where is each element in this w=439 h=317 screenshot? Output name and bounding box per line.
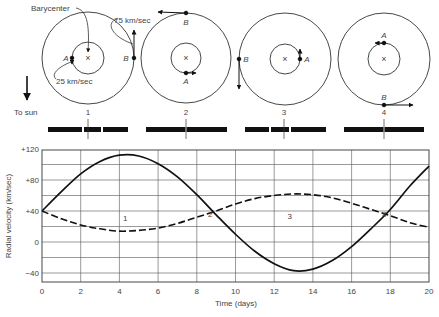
x-tick-label: 12 <box>270 287 279 296</box>
spectra <box>48 119 424 139</box>
star-b-label: B <box>381 93 387 102</box>
star-a-label: A <box>303 55 309 64</box>
chart-grid <box>42 150 429 282</box>
barycenter-markers: × × × × <box>85 53 386 64</box>
x-tick-label: 8 <box>195 287 200 296</box>
stars <box>70 11 413 107</box>
phase-label: 2 <box>208 210 213 219</box>
arrow-left-icon <box>158 12 186 13</box>
speed-b-label: 75 km/sec <box>114 16 150 25</box>
spectrum-4 <box>344 119 424 139</box>
panel-number: 1 <box>86 108 91 117</box>
chart-point-labels: 1234 <box>123 210 387 223</box>
panel-numbers: 1 2 3 4 <box>86 108 387 117</box>
star-a-label: A <box>182 77 188 86</box>
y-tick-label: 0 <box>35 238 40 247</box>
y-axis-label: Radial velocity (km/sec) <box>4 173 13 258</box>
barycenter-x-icon: × <box>85 53 90 63</box>
to-sun-label: To sun <box>14 108 38 117</box>
spectrum-2 <box>146 119 227 139</box>
star-a-label: A <box>380 31 386 40</box>
panel-number: 3 <box>282 108 287 117</box>
spectrum-1 <box>48 119 128 139</box>
barycenter-x-icon: × <box>183 53 188 63</box>
barycenter-x-icon: × <box>282 54 287 64</box>
x-axis-ticks: 02468101214161820 <box>40 287 434 296</box>
x-tick-label: 16 <box>347 287 356 296</box>
phase-label: 3 <box>287 212 292 221</box>
orbit-panels <box>42 12 430 105</box>
star-b-label: B <box>123 54 129 63</box>
y-tick-label: +40 <box>25 207 39 216</box>
y-axis-ticks: +120+80+400−40 <box>21 145 40 278</box>
panel-number: 4 <box>382 108 387 117</box>
star-labels: A B A B A B A B <box>62 18 387 102</box>
panel-number: 2 <box>184 108 189 117</box>
star-b-label: B <box>243 55 249 64</box>
speed-a-label: 25 km/sec <box>56 77 92 86</box>
star-b-label: B <box>183 18 189 27</box>
x-tick-label: 20 <box>425 287 434 296</box>
x-tick-label: 10 <box>231 287 240 296</box>
phase-label: 4 <box>382 210 387 219</box>
x-tick-label: 6 <box>156 287 161 296</box>
barycenter-x-icon: × <box>381 54 386 64</box>
x-tick-label: 18 <box>386 287 395 296</box>
binary-star-figure: × × × × A B A B A B A B <box>0 0 439 317</box>
x-tick-label: 4 <box>117 287 122 296</box>
x-axis-label: Time (days) <box>215 299 257 308</box>
spectrum-3 <box>245 119 326 139</box>
radial-velocity-chart: +120+80+400−40 02468101214161820 1234 Ti… <box>4 145 434 308</box>
x-tick-label: 2 <box>78 287 83 296</box>
star-a-label: A <box>62 54 68 63</box>
barycenter-label: Barycenter <box>31 4 70 13</box>
y-tick-label: −40 <box>25 269 39 278</box>
y-tick-label: +80 <box>25 176 39 185</box>
phase-label: 1 <box>123 214 128 223</box>
annotations: Barycenter 75 km/sec 25 km/sec To sun <box>14 4 150 117</box>
y-tick-label: +120 <box>21 145 40 154</box>
x-tick-label: 14 <box>308 287 317 296</box>
x-tick-label: 0 <box>40 287 45 296</box>
